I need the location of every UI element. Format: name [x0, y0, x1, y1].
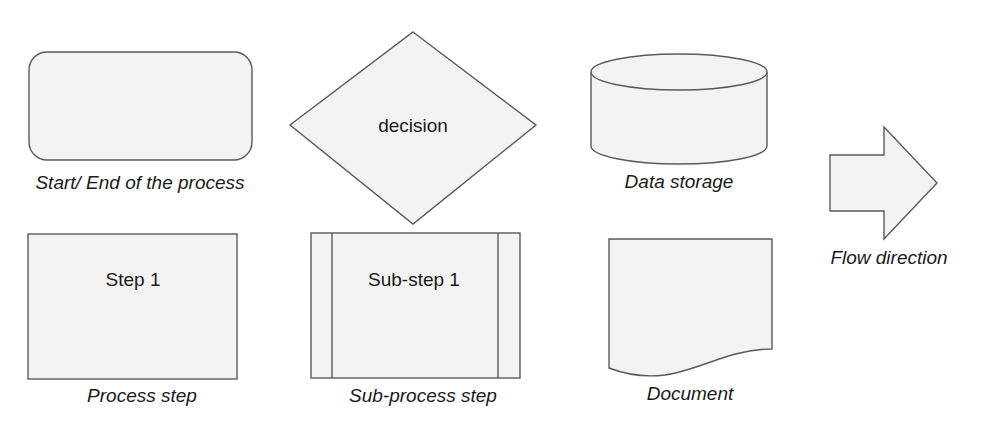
document-symbol: Document [609, 239, 772, 404]
process-symbol: Step 1 Process step [28, 234, 237, 406]
data-storage-symbol: Data storage [591, 54, 767, 192]
sub-process-symbol: Sub-step 1 Sub-process step [311, 233, 520, 406]
flowchart-legend: Start/ End of the process decision Data … [0, 0, 986, 425]
process-label: Step 1 [106, 269, 161, 290]
process-caption: Process step [87, 385, 197, 406]
sub-process-caption: Sub-process step [349, 385, 497, 406]
flow-direction-symbol: Flow direction [830, 127, 948, 268]
flow-direction-caption: Flow direction [830, 247, 947, 268]
terminator-caption: Start/ End of the process [35, 172, 245, 193]
terminator-symbol: Start/ End of the process [29, 52, 252, 193]
decision-label: decision [378, 115, 448, 136]
data-storage-caption: Data storage [625, 171, 734, 192]
decision-symbol: decision [290, 32, 536, 224]
sub-process-label: Sub-step 1 [368, 269, 460, 290]
document-caption: Document [647, 383, 734, 404]
